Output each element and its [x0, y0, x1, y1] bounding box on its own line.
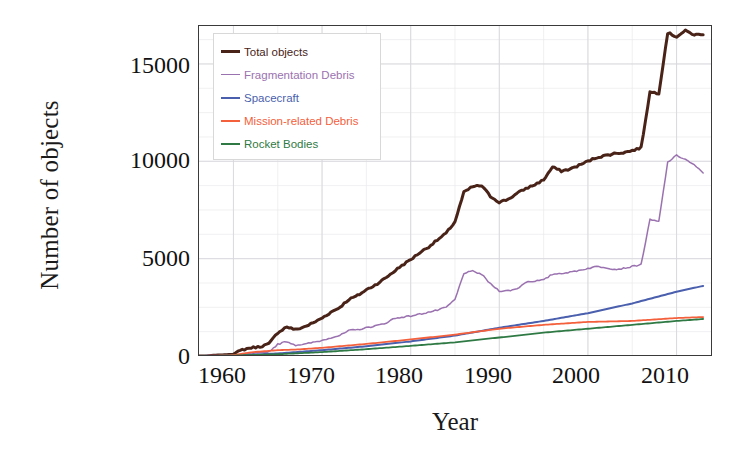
legend-label-mission-related-debris: Mission-related Debris — [244, 115, 358, 127]
legend-label-fragmentation-debris: Fragmentation Debris — [244, 69, 355, 81]
y-tick-5000: 5000 — [90, 245, 190, 272]
y-tick-15000: 15000 — [90, 52, 190, 79]
legend-item-rocket-bodies: Rocket Bodies — [221, 132, 373, 155]
chart-legend: Total objects Fragmentation Debris Space… — [213, 33, 381, 160]
legend-label-total-objects: Total objects — [244, 46, 308, 58]
legend-swatch-mission-related-debris — [221, 120, 240, 122]
legend-label-spacecraft: Spacecraft — [244, 92, 299, 104]
legend-label-rocket-bodies: Rocket Bodies — [244, 138, 318, 150]
chart-figure: Number of objects 15000 10000 5000 0 196… — [0, 0, 752, 466]
legend-item-fragmentation-debris: Fragmentation Debris — [221, 63, 373, 86]
y-axis-tick-labels: 15000 10000 5000 0 — [84, 0, 190, 466]
legend-swatch-spacecraft — [221, 97, 240, 99]
y-axis-label: Number of objects — [36, 100, 64, 289]
y-axis-label-container: Number of objects — [20, 0, 80, 390]
x-tick-2010: 2010 — [605, 362, 725, 389]
legend-swatch-fragmentation-debris — [221, 74, 240, 75]
legend-swatch-rocket-bodies — [221, 143, 240, 145]
legend-swatch-total-objects — [221, 50, 240, 53]
legend-item-total-objects: Total objects — [221, 40, 373, 63]
y-tick-10000: 10000 — [90, 147, 190, 174]
legend-item-mission-related-debris: Mission-related Debris — [221, 109, 373, 132]
legend-item-spacecraft: Spacecraft — [221, 86, 373, 109]
x-axis-label: Year — [198, 408, 712, 436]
